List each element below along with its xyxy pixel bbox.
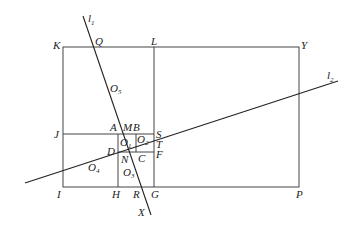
line-l1: [83, 16, 151, 215]
label-O5: O5: [110, 82, 122, 96]
label-R: R: [132, 188, 140, 200]
label-K: K: [52, 39, 61, 51]
label-I: I: [56, 188, 62, 200]
label-O4: O4: [88, 161, 100, 175]
label-G: G: [151, 188, 159, 200]
line-l2: [25, 81, 338, 183]
label-Q: Q: [95, 35, 103, 47]
geometry-diagram: l1 l2 K Q L Y J A M B S T F D N C I H R …: [0, 0, 355, 232]
label-l2: l2: [327, 69, 334, 84]
label-O3: O3: [123, 166, 135, 180]
label-C: C: [138, 152, 146, 164]
label-B: B: [133, 121, 140, 133]
label-N: N: [120, 153, 129, 165]
label-F: F: [155, 148, 163, 160]
label-M: M: [122, 121, 133, 133]
label-H: H: [111, 188, 121, 200]
label-P: P: [295, 188, 303, 200]
label-D: D: [106, 145, 115, 157]
label-l1: l1: [88, 12, 95, 27]
label-Y: Y: [301, 39, 309, 51]
diagram-svg: l1 l2 K Q L Y J A M B S T F D N C I H R …: [0, 0, 355, 232]
label-A: A: [109, 121, 117, 133]
label-L: L: [150, 35, 157, 47]
label-O1: O1: [120, 136, 131, 150]
label-X: X: [137, 206, 146, 218]
label-J: J: [54, 128, 60, 140]
label-O2: O2: [137, 133, 149, 147]
outer-rectangle: [63, 47, 299, 187]
